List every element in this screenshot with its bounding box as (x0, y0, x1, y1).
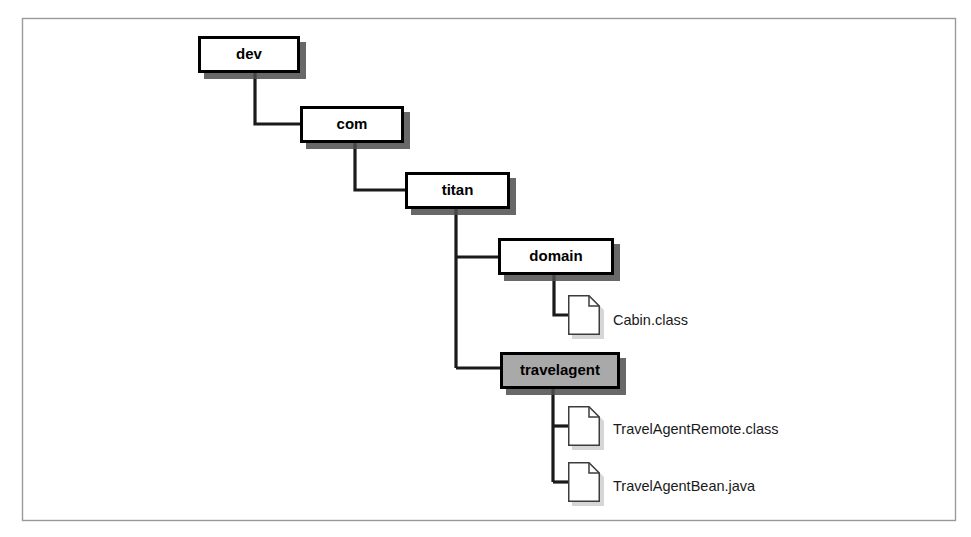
folder-node-dev[interactable]: dev (200, 38, 299, 72)
folder-node-com[interactable]: com (302, 108, 403, 142)
document-icon (569, 463, 600, 502)
folder-label-domain: domain (529, 247, 582, 264)
folder-label-travelagent: travelagent (520, 361, 600, 378)
folder-node-travelagent[interactable]: travelagent (502, 354, 619, 388)
folder-label-titan: titan (442, 181, 474, 198)
file-label-cabin-class: Cabin.class (613, 312, 688, 328)
figure-frame (23, 19, 956, 521)
directory-tree-figure: devcomtitandomaintravelagent Cabin.class… (0, 0, 971, 537)
file-label-travelagentbean-java: TravelAgentBean.java (613, 478, 756, 494)
tree-diagram-canvas: devcomtitandomaintravelagent Cabin.class… (0, 0, 971, 537)
folder-label-com: com (337, 115, 368, 132)
folder-node-titan[interactable]: titan (407, 174, 509, 208)
document-icon (569, 407, 600, 446)
folder-label-dev: dev (236, 45, 263, 62)
file-label-travelagentremote-class: TravelAgentRemote.class (613, 421, 778, 437)
document-icon (569, 296, 600, 335)
folder-node-domain[interactable]: domain (500, 240, 613, 274)
